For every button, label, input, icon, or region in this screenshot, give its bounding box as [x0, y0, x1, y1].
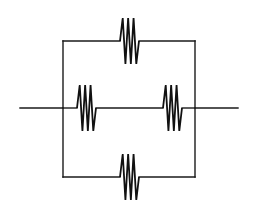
resistor-middle-right-icon	[163, 85, 182, 131]
resistor-top-icon	[120, 18, 139, 64]
resistor-middle-left-icon	[77, 85, 96, 131]
resistor-bottom-icon	[120, 154, 139, 200]
circuit-diagram	[0, 0, 260, 207]
resistors-group	[77, 18, 182, 200]
